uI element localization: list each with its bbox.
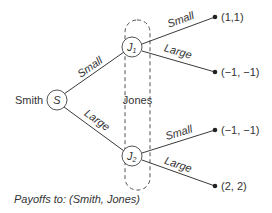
payoff-j2-small: (−1, −1): [221, 124, 260, 136]
game-tree-diagram: S J1 J2 Smith Jones Small Large Small La…: [0, 0, 272, 213]
terminal-dot-j2-small: [213, 128, 218, 133]
terminal-dot-j1-large: [213, 70, 218, 75]
player-label-smith: Smith: [15, 94, 43, 106]
edge-label-j2-small: Small: [164, 122, 194, 142]
edge-label-j1-small: Small: [166, 9, 196, 30]
payoff-j2-large: (2, 2): [221, 180, 247, 192]
terminal-dot-j2-large: [213, 184, 218, 189]
node-j1-subscript: 1: [133, 47, 137, 54]
node-root-label: S: [53, 94, 61, 106]
terminal-dot-j1-small: [213, 15, 218, 20]
payoff-j1-large: (−1, −1): [221, 66, 260, 78]
payoff-j1-small: (1,1): [221, 11, 244, 23]
edge-label-root-large: Large: [82, 107, 112, 133]
payoffs-caption: Payoffs to: (Smith, Jones): [14, 193, 140, 205]
information-set-label-jones: Jones: [123, 94, 153, 106]
edge-label-j2_large: Large: [163, 154, 194, 175]
node-j2-subscript: 2: [132, 156, 137, 163]
